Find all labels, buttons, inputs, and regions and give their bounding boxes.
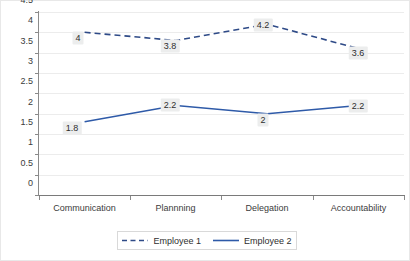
x-category-label: Communication [39, 202, 130, 214]
y-tick-label: 1.5 [5, 118, 33, 127]
x-tick-mark [130, 196, 131, 200]
legend-item-employee-2[interactable]: Employee 2 [213, 236, 292, 246]
y-tick-label: 2 [5, 98, 33, 107]
gridline [39, 154, 404, 155]
y-tick-label: 3 [5, 57, 33, 66]
legend-label: Employee 2 [244, 236, 292, 246]
gridline [39, 134, 404, 135]
gridline [39, 73, 404, 74]
y-tick-label: 4.5 [5, 0, 33, 5]
y-tick-mark [35, 53, 39, 54]
data-label: 4.2 [254, 19, 273, 32]
data-label: 2 [257, 114, 268, 127]
data-label: 4 [72, 32, 83, 45]
y-tick-mark [35, 175, 39, 176]
y-tick-label: 4 [5, 16, 33, 25]
data-label: 3.6 [349, 47, 368, 60]
y-tick-mark [35, 73, 39, 74]
chart-title-cropped [1, 1, 410, 8]
x-tick-mark [404, 196, 405, 200]
legend-swatch-solid-icon [213, 237, 239, 244]
chart-legend: Employee 1 Employee 2 [117, 231, 297, 250]
gridline [39, 93, 404, 94]
legend-swatch-dashed-icon [122, 237, 148, 244]
y-tick-label: 1 [5, 138, 33, 147]
gridline [39, 12, 404, 13]
x-category-label: Plannning [130, 202, 221, 214]
x-tick-mark [313, 196, 314, 200]
gridline [39, 32, 404, 33]
x-tick-mark [39, 196, 40, 200]
x-category-label: Accountability [313, 202, 404, 214]
y-axis-labels: 0 0.5 1 1.5 2 2.5 3 3.5 4 4.5 [1, 1, 33, 206]
y-tick-mark [35, 154, 39, 155]
data-label: 1.8 [63, 122, 82, 135]
y-axis-line [38, 11, 39, 196]
x-category-label: Delegation [221, 202, 313, 214]
legend-label: Employee 1 [153, 236, 201, 246]
gridline [39, 175, 404, 176]
y-tick-label: 2.5 [5, 77, 33, 86]
data-label: 2.2 [349, 100, 368, 113]
legend-item-employee-1[interactable]: Employee 1 [122, 236, 201, 246]
y-tick-mark [35, 12, 39, 13]
gridline [39, 114, 404, 115]
y-tick-mark [35, 114, 39, 115]
y-tick-mark [35, 134, 39, 135]
x-tick-mark [221, 196, 222, 200]
data-label: 3.8 [161, 40, 180, 53]
data-label: 2.2 [161, 99, 180, 112]
y-tick-label: 0.5 [5, 159, 33, 168]
y-tick-mark [35, 93, 39, 94]
y-tick-label: 0 [5, 179, 33, 188]
chart-container: 0 0.5 1 1.5 2 2.5 3 3.5 4 4.5 Communicat… [0, 0, 410, 261]
y-tick-mark [35, 32, 39, 33]
y-tick-label: 3.5 [5, 37, 33, 46]
